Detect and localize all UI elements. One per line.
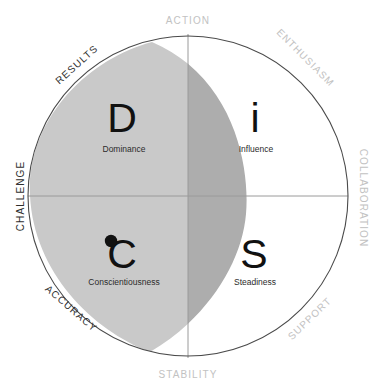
axis-label-action: ACTION <box>166 15 210 26</box>
quadrant-description-steadiness: Steadiness <box>234 277 276 287</box>
axis-label-stability: STABILITY <box>158 369 217 380</box>
quadrant-letter-i: i <box>250 95 259 141</box>
quadrant-letter-s: S <box>240 231 267 277</box>
axis-label-enthusiasm: ENTHUSIASM <box>275 27 337 89</box>
axis-label-collaboration: COLLABORATION <box>358 149 369 248</box>
quadrant-description-dominance: Dominance <box>103 144 146 154</box>
quadrant-description-influence: Influence <box>239 144 274 154</box>
c-letter-dot <box>105 235 117 247</box>
disc-diagram: D Dominance i Influence C Conscientiousn… <box>0 0 377 390</box>
quadrant-letter-c-group: C <box>105 231 137 277</box>
quadrant-letter-d: D <box>107 95 137 141</box>
axis-label-support: SUPPORT <box>286 295 334 342</box>
axis-label-challenge: CHALLENGE <box>15 161 26 231</box>
disc-diagram-canvas: D Dominance i Influence C Conscientiousn… <box>0 0 377 390</box>
quadrant-description-conscientiousness: Conscientiousness <box>88 277 159 287</box>
